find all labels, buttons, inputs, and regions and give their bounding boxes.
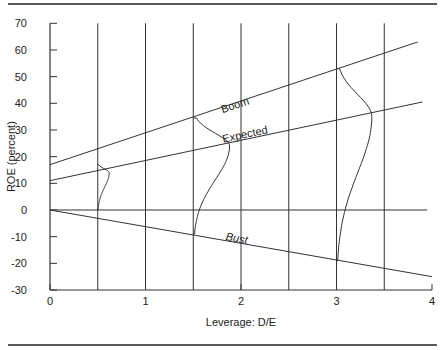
y-tick-label: 50 — [15, 71, 27, 83]
y-tick-label: 60 — [15, 44, 27, 56]
y-tick-label: -30 — [11, 284, 27, 296]
y-axis-label: ROE (percent) — [5, 121, 17, 192]
bust-label: Bust — [225, 230, 250, 246]
y-tick-label: -10 — [11, 231, 27, 243]
boom-label: Boom — [219, 95, 250, 115]
x-tick-label: 0 — [47, 295, 53, 307]
roe-leverage-chart: -30-20-1001020304050607001234Leverage: D… — [0, 0, 443, 350]
y-tick-label: 70 — [15, 17, 27, 29]
y-tick-label: 0 — [21, 204, 27, 216]
x-tick-label: 2 — [238, 295, 244, 307]
expected-label: Expected — [221, 123, 268, 144]
x-tick-label: 1 — [142, 295, 148, 307]
y-tick-label: 40 — [15, 97, 27, 109]
x-tick-label: 4 — [429, 295, 435, 307]
y-tick-label: -20 — [11, 257, 27, 269]
x-axis-label: Leverage: D/E — [206, 316, 276, 328]
x-tick-label: 3 — [333, 295, 339, 307]
distribution-curve-1 — [98, 165, 109, 210]
labels: BoomExpectedBust — [219, 95, 268, 246]
distribution-curve-3 — [337, 69, 372, 261]
vertical-gridlines — [98, 23, 385, 290]
